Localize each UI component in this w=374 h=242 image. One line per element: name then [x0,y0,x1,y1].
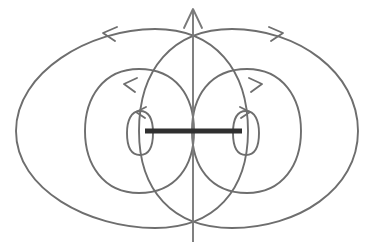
outer-loop-left [16,27,248,228]
middle-right-arrow-icon [249,78,262,92]
vertical-axis-arrow [184,9,202,242]
field-line-diagram [0,0,374,242]
middle-left-arrow-icon [124,78,137,92]
dipole-bar [145,129,242,134]
diagram-canvas [0,0,374,242]
